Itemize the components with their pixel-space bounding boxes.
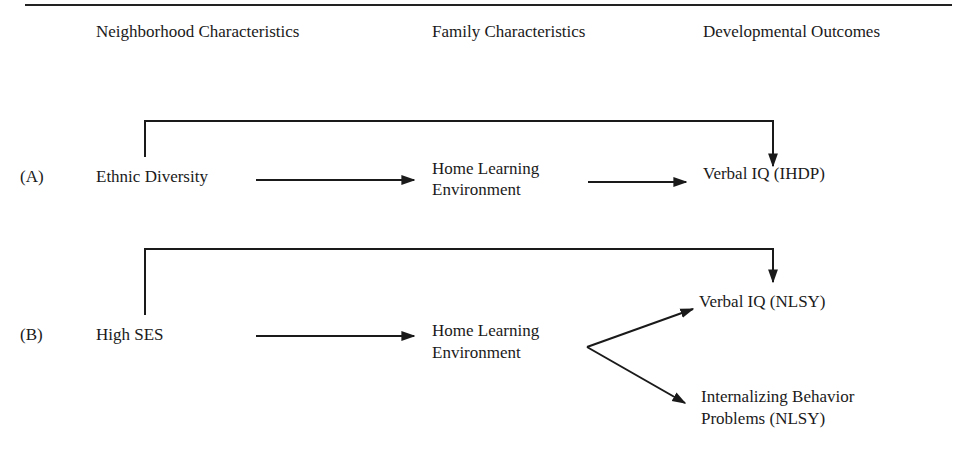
path-arrows: [0, 0, 959, 450]
model-b-arrow-to-outcome2: [587, 347, 685, 403]
model-a-direct-arrow: [145, 121, 773, 166]
model-b-direct-arrow: [145, 249, 773, 315]
model-b-arrow-to-outcome1: [587, 309, 693, 347]
